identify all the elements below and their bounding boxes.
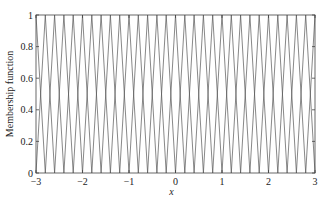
membership-triangle-12 <box>138 15 157 173</box>
x-tick-label: 3 <box>313 176 318 187</box>
membership-triangle-29 <box>296 15 315 173</box>
membership-triangle-13 <box>148 15 167 173</box>
membership-triangle-1 <box>36 15 55 173</box>
series-layer <box>36 15 315 173</box>
membership-triangle-7 <box>92 15 111 173</box>
membership-triangle-3 <box>55 15 74 173</box>
membership-triangle-14 <box>157 15 176 173</box>
membership-triangle-8 <box>101 15 120 173</box>
membership-triangle-5 <box>73 15 92 173</box>
y-tick-label: 0.8 <box>21 41 34 52</box>
membership-triangle-4 <box>64 15 83 173</box>
y-tick-label: 0 <box>28 168 33 179</box>
x-tick-label: 0 <box>173 176 178 187</box>
x-axis-label: x <box>168 186 174 197</box>
x-tick-label: −2 <box>77 176 88 187</box>
membership-triangle-6 <box>83 15 102 173</box>
x-tick-label: 1 <box>220 176 225 187</box>
y-axis-label: Membership function <box>4 51 15 137</box>
membership-triangle-26 <box>269 15 288 173</box>
membership-triangle-27 <box>278 15 297 173</box>
x-tick-label: −1 <box>124 176 135 187</box>
membership-triangle-22 <box>231 15 250 173</box>
membership-triangle-21 <box>222 15 241 173</box>
membership-triangle-24 <box>250 15 269 173</box>
y-tick-label: 0.4 <box>21 104 34 115</box>
membership-triangle-23 <box>241 15 260 173</box>
y-tick-label: 0.2 <box>21 136 34 147</box>
membership-triangle-11 <box>129 15 148 173</box>
membership-triangle-2 <box>45 15 64 173</box>
x-tick-label: 2 <box>266 176 271 187</box>
membership-triangle-28 <box>287 15 306 173</box>
membership-triangle-18 <box>194 15 213 173</box>
membership-triangle-25 <box>259 15 278 173</box>
membership-triangle-10 <box>120 15 139 173</box>
membership-triangle-20 <box>213 15 232 173</box>
y-tick-label: 1 <box>28 10 33 21</box>
membership-triangle-16 <box>176 15 195 173</box>
membership-triangle-15 <box>166 15 185 173</box>
y-axis-ticks: 00.20.40.60.81 <box>21 10 316 179</box>
membership-triangle-17 <box>185 15 204 173</box>
membership-triangle-19 <box>203 15 222 173</box>
membership-function-chart: −3−2−10123 00.20.40.60.81 x Membership f… <box>0 0 324 204</box>
membership-triangle-9 <box>110 15 129 173</box>
y-tick-label: 0.6 <box>21 73 34 84</box>
